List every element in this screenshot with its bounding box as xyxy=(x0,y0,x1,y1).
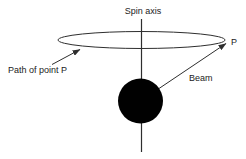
sphere xyxy=(118,79,163,124)
spin-diagram: Spin axis P Beam Path of point P xyxy=(0,0,246,159)
beam-label: Beam xyxy=(189,73,213,83)
path-of-point-label: Path of point P xyxy=(8,65,67,75)
spin-axis-label: Spin axis xyxy=(125,6,162,16)
path-label-arrow xyxy=(52,50,80,65)
diagram-canvas: Spin axis P Beam Path of point P xyxy=(0,0,246,159)
point-p-label: P xyxy=(231,37,237,47)
